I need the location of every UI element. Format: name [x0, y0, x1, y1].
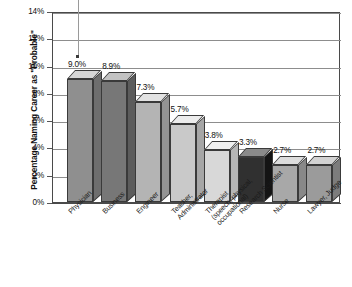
bar-value-label: 2.7%	[307, 146, 325, 155]
bar-front-face	[135, 102, 161, 202]
y-tick-label: 8%	[14, 89, 44, 98]
plot-area	[52, 12, 340, 203]
y-tick-mark	[47, 39, 52, 40]
y-tick-mark	[47, 121, 52, 122]
y-tick-label: 14%	[14, 7, 44, 16]
bar-value-label: 7.3%	[136, 83, 154, 92]
bar-value-label: 8.9%	[102, 62, 120, 71]
bar-front-face	[67, 79, 93, 202]
bar[interactable]	[135, 102, 161, 202]
gridline	[53, 40, 341, 41]
y-tick-mark	[47, 67, 52, 68]
y-tick-label: 0%	[14, 198, 44, 207]
bar-chart: Percentage Naming Career as "Probable" 0…	[0, 0, 352, 287]
y-tick-mark	[47, 176, 52, 177]
y-tick-label: 12%	[14, 34, 44, 43]
y-tick-mark	[47, 203, 52, 204]
bar-value-label: 2.7%	[273, 146, 291, 155]
bar-value-label: 3.8%	[205, 131, 223, 140]
y-tick-mark	[47, 148, 52, 149]
gridline	[53, 68, 341, 69]
bar-value-label: 5.7%	[171, 105, 189, 114]
bar[interactable]	[101, 81, 127, 202]
bar-front-face	[101, 81, 127, 202]
y-tick-mark	[47, 12, 52, 13]
bar[interactable]	[67, 79, 93, 202]
annotation-marker-icon	[76, 55, 79, 58]
bar-value-label: 3.3%	[239, 138, 257, 147]
y-tick-label: 4%	[14, 143, 44, 152]
y-tick-label: 10%	[14, 62, 44, 71]
y-tick-label: 6%	[14, 116, 44, 125]
annotation-line	[78, 0, 79, 56]
gridline	[53, 13, 341, 14]
bar-value-label: 9.0%	[68, 60, 86, 69]
y-tick-mark	[47, 94, 52, 95]
y-axis-line	[52, 12, 53, 204]
y-tick-label: 2%	[14, 171, 44, 180]
